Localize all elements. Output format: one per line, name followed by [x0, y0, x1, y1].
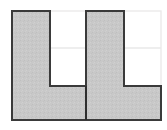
l-shapes-figure	[0, 0, 167, 130]
figure-canvas	[0, 0, 167, 130]
